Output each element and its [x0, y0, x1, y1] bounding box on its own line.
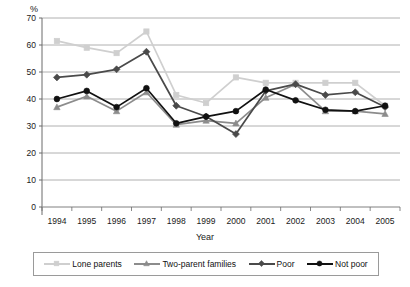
x-axis-title: Year — [196, 232, 214, 242]
series-lone-parents — [54, 29, 387, 108]
data-point-marker-circle — [323, 107, 329, 113]
legend-item-lone-parents[interactable]: Lone parents — [44, 259, 122, 269]
chart-container: % 010203040506070 1994199519961997199819… — [0, 0, 410, 287]
y-tick-label: 70 — [27, 13, 37, 23]
legend-label: Not poor — [335, 259, 368, 269]
plot-area: 010203040506070 199419951996199719981999… — [0, 0, 410, 287]
y-tick-label: 20 — [27, 148, 37, 158]
legend-marker-diamond-icon — [258, 260, 265, 267]
data-point-marker-square — [114, 51, 119, 56]
data-point-marker-square — [323, 80, 328, 85]
y-tick-label: 40 — [27, 94, 37, 104]
data-point-marker-circle — [233, 108, 239, 114]
data-point-marker-triangle — [144, 261, 150, 266]
x-tick-label: 1999 — [197, 216, 216, 226]
legend-swatch-square-icon — [44, 259, 70, 269]
data-point-marker-circle — [352, 108, 358, 114]
legend-label: Poor — [277, 259, 295, 269]
data-point-marker-diamond — [53, 74, 60, 81]
data-point-marker-square — [54, 261, 59, 266]
x-tick-labels: 1994199519961997199819992000200120022003… — [42, 207, 400, 226]
data-point-marker-diamond — [173, 102, 180, 109]
data-point-marker-circle — [84, 88, 90, 94]
data-point-marker-square — [203, 100, 208, 105]
data-point-marker-diamond — [322, 91, 329, 98]
data-point-marker-circle — [173, 120, 179, 126]
x-tick-label: 1995 — [77, 216, 96, 226]
legend-item-two-parent-families[interactable]: Two-parent families — [134, 259, 236, 269]
y-tick-label: 60 — [27, 40, 37, 50]
data-point-marker-circle — [263, 87, 269, 93]
series-two-parent-families — [54, 81, 389, 127]
data-point-marker-circle — [114, 104, 120, 110]
x-tick-label: 2005 — [376, 216, 395, 226]
data-point-marker-square — [263, 80, 268, 85]
data-point-marker-circle — [382, 103, 388, 109]
data-point-marker-square — [233, 75, 238, 80]
y-tick-labels: 010203040506070 — [27, 13, 42, 212]
legend-label: Two-parent families — [162, 259, 236, 269]
data-point-marker-square — [84, 45, 89, 50]
legend-marker-circle-icon — [316, 260, 323, 267]
legend-swatch-diamond-icon — [249, 259, 275, 269]
legend-marker-triangle-icon — [143, 260, 150, 267]
x-tick-label: 2003 — [316, 216, 335, 226]
data-point-marker-square — [54, 38, 59, 43]
x-tick-label: 1998 — [167, 216, 186, 226]
x-tick-label: 2001 — [256, 216, 275, 226]
data-point-marker-circle — [317, 261, 322, 266]
y-tick-label: 0 — [31, 202, 36, 212]
data-point-marker-circle — [144, 85, 150, 91]
legend-label: Lone parents — [72, 259, 122, 269]
data-point-marker-circle — [203, 114, 209, 120]
y-tick-label: 50 — [27, 67, 37, 77]
legend-item-not-poor[interactable]: Not poor — [307, 259, 368, 269]
x-tick-label: 1996 — [107, 216, 126, 226]
legend-item-poor[interactable]: Poor — [249, 259, 295, 269]
x-tick-label: 1997 — [137, 216, 156, 226]
legend-swatch-triangle-icon — [134, 259, 160, 269]
data-point-marker-diamond — [352, 89, 359, 96]
x-tick-label: 2000 — [226, 216, 245, 226]
series-poor — [53, 48, 388, 137]
gridlines — [42, 18, 400, 207]
data-point-marker-circle — [54, 96, 60, 102]
legend-swatch-circle-icon — [307, 259, 333, 269]
line-chart-svg: 010203040506070 199419951996199719981999… — [0, 0, 410, 287]
data-point-marker-square — [144, 29, 149, 34]
y-tick-label: 30 — [27, 121, 37, 131]
data-point-marker-square — [174, 92, 179, 97]
data-point-marker-diamond — [143, 48, 150, 55]
legend-marker-square-icon — [53, 260, 60, 267]
x-tick-label: 1994 — [47, 216, 66, 226]
data-point-marker-square — [353, 80, 358, 85]
x-tick-label: 2002 — [286, 216, 305, 226]
data-point-marker-circle — [293, 97, 299, 103]
chart-legend: Lone parentsTwo-parent familiesPoorNot p… — [33, 252, 379, 276]
y-tick-label: 10 — [27, 175, 37, 185]
x-tick-label: 2004 — [346, 216, 365, 226]
data-point-marker-diamond — [258, 260, 264, 266]
